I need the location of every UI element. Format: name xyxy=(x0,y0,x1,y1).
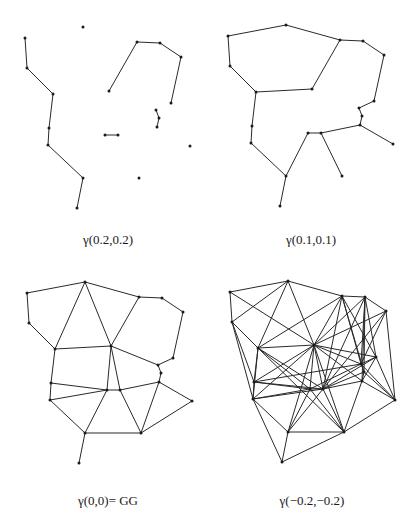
graph-edge xyxy=(27,68,53,94)
graph-edge xyxy=(256,89,312,92)
graph-edge xyxy=(107,346,111,390)
graph-edge xyxy=(314,297,365,345)
graph-node xyxy=(108,90,111,93)
graph-node xyxy=(383,54,386,57)
graph-node xyxy=(361,380,364,383)
graph-edge xyxy=(141,401,192,433)
graph-node xyxy=(82,177,85,180)
graph-edge xyxy=(55,346,111,349)
graph-edge xyxy=(228,36,230,66)
graph-edge xyxy=(173,312,183,358)
graph-node xyxy=(361,115,364,118)
graph-node xyxy=(157,364,160,367)
graph-edge xyxy=(141,382,159,433)
graph-edge xyxy=(344,381,362,432)
graph-edge xyxy=(48,145,83,178)
graph-node xyxy=(307,132,310,135)
graph-node xyxy=(285,24,288,27)
graph-edge xyxy=(230,66,256,92)
graph-edge xyxy=(252,92,256,126)
graph-node xyxy=(52,93,55,96)
graph-edge xyxy=(162,298,183,312)
graph-edge xyxy=(253,382,254,399)
graph-node xyxy=(285,175,288,178)
graph-node xyxy=(375,356,378,359)
graph-node xyxy=(106,389,109,392)
graph-edge xyxy=(314,296,342,345)
graph-edge xyxy=(321,133,342,176)
graph-panel-gamma-0.2 xyxy=(24,26,192,210)
graph-edge xyxy=(120,382,159,390)
graph-node xyxy=(320,132,323,135)
graph-node xyxy=(229,65,232,68)
graph-edge xyxy=(282,432,288,462)
graph-edge xyxy=(288,281,314,345)
graph-node xyxy=(364,296,367,299)
graph-edge xyxy=(50,400,85,433)
graph-node xyxy=(287,431,290,434)
graph-edge xyxy=(365,297,386,311)
graph-edge xyxy=(25,38,27,68)
graph-edge xyxy=(314,345,361,364)
graph-node xyxy=(363,371,366,374)
graph-node xyxy=(287,280,290,283)
graph-edge xyxy=(253,399,282,462)
graph-edge xyxy=(171,57,181,103)
graph-edge xyxy=(323,389,344,432)
graph-node xyxy=(322,388,325,391)
graph-edge xyxy=(282,432,344,462)
graph-edge xyxy=(159,382,192,401)
graph-edge xyxy=(85,282,139,297)
graph-edge xyxy=(111,346,120,390)
graph-edge xyxy=(230,292,314,345)
graph-edge xyxy=(85,390,107,433)
graph-edge xyxy=(251,126,252,143)
figure-canvas xyxy=(0,0,414,522)
graph-edge xyxy=(232,322,254,382)
graph-edge xyxy=(344,400,395,432)
graph-edge xyxy=(363,41,384,55)
graph-edge xyxy=(386,311,395,400)
graph-edge xyxy=(158,358,173,365)
graph-edge xyxy=(321,125,360,133)
graph-edge xyxy=(253,345,314,399)
graph-node xyxy=(104,134,107,137)
graph-node xyxy=(78,462,81,465)
graph-node xyxy=(189,145,192,148)
graph-node xyxy=(26,67,29,70)
graph-edge xyxy=(342,296,365,297)
graph-edge xyxy=(49,94,53,128)
graph-node xyxy=(191,400,194,403)
graph-node xyxy=(373,100,376,103)
graph-node xyxy=(160,372,163,375)
graph-edge xyxy=(258,281,288,348)
graph-node xyxy=(392,143,395,146)
graph-edge xyxy=(48,128,49,145)
graph-edge xyxy=(120,390,141,433)
graph-node xyxy=(394,399,397,402)
graph-node xyxy=(50,382,53,385)
graph-edge xyxy=(51,383,107,390)
graph-node xyxy=(28,322,31,325)
graph-node xyxy=(161,297,164,300)
caption-gamma-0.1: γ(0.1,0.1) xyxy=(241,232,381,248)
graph-edge xyxy=(310,389,344,432)
graph-node xyxy=(172,357,175,360)
graph-node xyxy=(82,26,85,29)
graph-edge xyxy=(232,322,253,399)
graph-node xyxy=(255,91,258,94)
graph-edge xyxy=(228,25,286,36)
graph-edge xyxy=(160,43,181,57)
graph-node xyxy=(180,56,183,59)
graph-node xyxy=(140,432,143,435)
graph-panel-gamma-0.1 xyxy=(227,24,395,208)
graph-node xyxy=(26,292,29,295)
graph-node xyxy=(385,310,388,313)
graph-edge xyxy=(258,296,342,348)
graph-node xyxy=(362,40,365,43)
graph-edge xyxy=(77,178,83,208)
graph-edge xyxy=(139,297,162,298)
graph-node xyxy=(279,205,282,208)
graph-node xyxy=(110,345,113,348)
graph-node xyxy=(54,348,57,351)
